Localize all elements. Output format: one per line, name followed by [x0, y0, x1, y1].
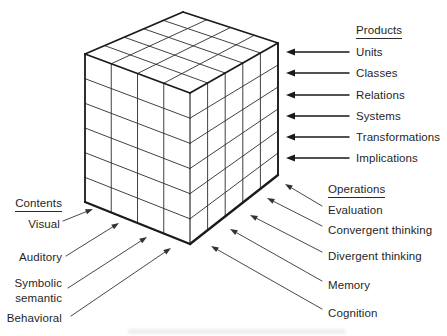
product-arrow-2-head	[286, 92, 295, 99]
right-face-grid-line	[190, 109, 278, 169]
product-arrow-3-head	[286, 113, 295, 120]
label-convergent-thinking: Convergent thinking	[328, 223, 432, 237]
content-arrow-1-head	[111, 223, 119, 229]
label-transformations: Transformations	[356, 130, 440, 144]
label-relations: Relations	[356, 88, 405, 102]
label-implications: Implications	[356, 151, 418, 165]
content-arrow-1-shaft	[66, 227, 113, 256]
label-memory: Memory	[328, 278, 370, 292]
content-arrow-0-shaft	[63, 212, 86, 221]
product-arrow-0-head	[286, 49, 295, 56]
label-cognition: Cognition	[328, 306, 378, 320]
label-symbolic: Symbolic	[15, 277, 62, 289]
operation-arrow-4-shaft	[218, 250, 322, 309]
label-evaluation: Evaluation	[328, 203, 383, 217]
operation-arrow-1-head	[267, 198, 275, 204]
figure-container: Products Units Classes Relations Systems…	[0, 0, 447, 336]
products-heading: Products	[356, 23, 402, 39]
content-arrow-3-shaft	[71, 252, 165, 316]
operation-arrow-1-shaft	[274, 201, 322, 226]
label-visual: Visual	[28, 217, 60, 231]
label-units: Units	[356, 45, 383, 59]
cube-edge-top-left	[85, 12, 183, 54]
right-face-grid-line	[190, 65, 278, 118]
content-arrow-0-head	[85, 209, 93, 214]
content-arrow-3-head	[163, 248, 171, 255]
label-classes: Classes	[356, 66, 398, 80]
operation-arrow-3-head	[230, 229, 238, 235]
operation-arrow-0-head	[285, 184, 293, 190]
cropped-caption-remnant	[128, 329, 346, 334]
contents-heading: Contents	[15, 196, 62, 212]
product-arrow-1-head	[286, 70, 295, 77]
label-systems: Systems	[356, 109, 401, 123]
label-behavioral: Behavioral	[7, 311, 62, 325]
top-face-grid-line	[144, 29, 243, 63]
product-arrow-5-head	[286, 155, 295, 162]
operation-arrow-0-shaft	[291, 188, 322, 206]
label-auditory: Auditory	[19, 250, 62, 264]
operation-arrow-2-head	[250, 215, 258, 221]
top-face-grid-line	[138, 28, 231, 74]
top-face-grid-line	[105, 46, 208, 83]
cube-edge-top-front-right	[190, 43, 278, 93]
content-arrow-2-head	[139, 237, 147, 243]
operations-heading: Operations	[328, 182, 385, 198]
top-face-grid-line	[111, 20, 207, 64]
cube-edge-top-right	[183, 12, 278, 43]
top-face-grid-line	[164, 35, 255, 83]
top-face-grid-line	[163, 20, 260, 53]
operation-arrow-4-head	[211, 246, 219, 252]
operation-arrow-3-shaft	[237, 233, 322, 281]
product-arrow-4-head	[286, 134, 295, 141]
top-face-grid-line	[124, 37, 225, 73]
right-face-grid-line	[190, 87, 278, 143]
label-semantic: semantic	[15, 292, 62, 304]
operation-arrow-2-shaft	[257, 218, 322, 252]
label-divergent-thinking: Divergent thinking	[328, 249, 422, 263]
label-symbolic-semantic: Symbolic semantic	[15, 276, 62, 306]
